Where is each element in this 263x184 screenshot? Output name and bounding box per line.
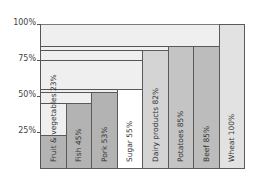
bar-label: Wheat 100% [227,114,236,162]
bar-label: Fish 45% [74,128,83,162]
y-axis-line [40,24,41,169]
y-tick-label: 25% [2,126,36,135]
bar-label: Fruit & vegetables 23% [48,74,57,162]
y-tick-label: 75% [2,54,36,63]
bar-label: Pork 53% [99,127,108,162]
y-tick-label: 100% [2,18,36,27]
bar-label: Dairy products 82% [150,88,159,162]
bar-label: Beef 85% [201,126,210,162]
bar-label: Potatoes 85% [176,111,185,163]
bar-label: Sugar 55% [125,121,134,162]
bar-chart: 25%50%75%100%Fruit & vegetables 23%Fish … [0,0,263,184]
y-tick-label: 50% [2,90,36,99]
